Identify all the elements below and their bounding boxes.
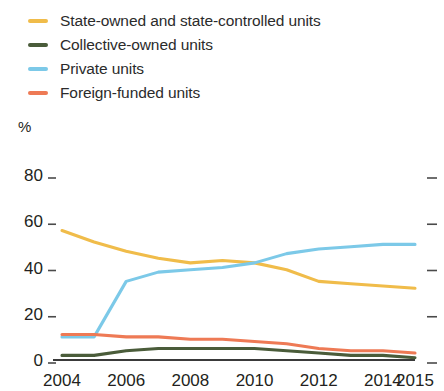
x-axis-tick-label: 2010 xyxy=(236,371,274,390)
legend-item[interactable]: State-owned and state-controlled units xyxy=(28,10,321,32)
legend-color-swatch-icon xyxy=(28,91,48,95)
legend-item[interactable]: Private units xyxy=(28,58,144,80)
y-axis-tick-label: 80 xyxy=(24,166,43,185)
x-axis-tick-label: 2008 xyxy=(171,371,209,390)
series-line-0 xyxy=(62,231,415,289)
x-axis-tick-label: 2006 xyxy=(107,371,145,390)
y-axis-unit-label: % xyxy=(18,118,31,135)
x-axis-tick-label: 2015 xyxy=(396,371,434,390)
x-axis-tick-label: 2004 xyxy=(43,371,81,390)
legend-color-swatch-icon xyxy=(28,19,48,23)
y-axis-tick-label: 20 xyxy=(24,305,43,324)
legend-item-label: State-owned and state-controlled units xyxy=(60,13,321,29)
chart-plot-area: %0204060802004200620082010201220142015 xyxy=(0,104,444,391)
y-axis-tick-label: 40 xyxy=(24,259,43,278)
series-line-2 xyxy=(62,244,415,337)
legend-item[interactable]: Foreign-funded units xyxy=(28,82,200,104)
chart-figure: State-owned and state-controlled unitsCo… xyxy=(0,0,444,391)
chart-legend: State-owned and state-controlled unitsCo… xyxy=(0,0,444,104)
y-axis-tick-label: 60 xyxy=(24,212,43,231)
line-chart-svg: %0204060802004200620082010201220142015 xyxy=(0,104,444,391)
legend-item[interactable]: Collective-owned units xyxy=(28,34,213,56)
legend-color-swatch-icon xyxy=(28,43,48,47)
series-line-3 xyxy=(62,335,415,354)
legend-item-label: Collective-owned units xyxy=(60,37,213,53)
x-axis-tick-label: 2012 xyxy=(300,371,338,390)
legend-color-swatch-icon xyxy=(28,67,48,71)
y-axis-tick-label: 0 xyxy=(34,351,43,370)
legend-item-label: Foreign-funded units xyxy=(60,85,200,101)
legend-item-label: Private units xyxy=(60,61,144,77)
